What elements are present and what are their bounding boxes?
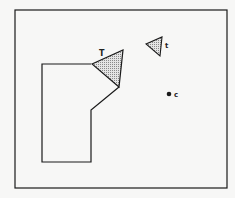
label-c: c [174, 91, 178, 99]
diagram-canvas: T t c [0, 0, 235, 198]
label-T: T [99, 49, 105, 58]
large-triangle-T [92, 50, 123, 87]
small-triangle-t [146, 37, 162, 56]
polygon-outline [42, 64, 119, 162]
point-c [167, 92, 172, 97]
label-t: t [165, 42, 169, 50]
outer-frame [15, 10, 227, 188]
